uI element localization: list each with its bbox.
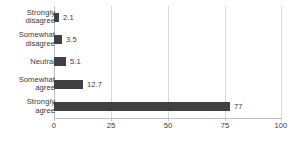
- bar-row: Somewhat disagree 3.5: [0, 28, 295, 50]
- bar-container: 5.1: [54, 51, 81, 73]
- category-label: Strongly disagree: [5, 9, 55, 26]
- bar-value-label: 5.1: [70, 57, 81, 66]
- bar-container: 77: [54, 96, 243, 118]
- x-tick-label: 25: [96, 121, 126, 130]
- bar-container: 12.7: [54, 73, 102, 95]
- category-label: Somewhat agree: [5, 76, 55, 93]
- bar-value-label: 2.1: [63, 13, 74, 22]
- bar-value-label: 77: [234, 102, 243, 111]
- x-tick-label: 100: [266, 121, 295, 130]
- category-label: Neutral: [5, 58, 55, 67]
- bar-strongly-agree: [54, 102, 230, 111]
- x-axis-tick-labels: 0 25 50 75 100: [0, 121, 295, 137]
- bar-neutral: [54, 57, 66, 66]
- bar-somewhat-disagree: [54, 35, 62, 44]
- bar-row: Strongly agree 77: [0, 96, 295, 118]
- x-tick-label: 50: [153, 121, 183, 130]
- bar-row: Neutral 5.1: [0, 51, 295, 73]
- bar-value-label: 3.5: [66, 35, 77, 44]
- bar-container: 3.5: [54, 28, 77, 50]
- category-label: Strongly agree: [5, 98, 55, 115]
- x-tick-label: 0: [39, 121, 69, 130]
- category-label: Somewhat disagree: [5, 31, 55, 48]
- bar-rows: Strongly disagree 2.1 Somewhat disagree …: [0, 6, 295, 118]
- bar-chart: Strongly disagree 2.1 Somewhat disagree …: [0, 0, 295, 145]
- bar-strongly-disagree: [54, 13, 59, 22]
- bar-somewhat-agree: [54, 80, 83, 89]
- bar-container: 2.1: [54, 6, 74, 28]
- bar-value-label: 12.7: [87, 80, 102, 89]
- x-tick-label: 75: [210, 121, 240, 130]
- bar-row: Somewhat agree 12.7: [0, 73, 295, 95]
- bar-row: Strongly disagree 2.1: [0, 6, 295, 28]
